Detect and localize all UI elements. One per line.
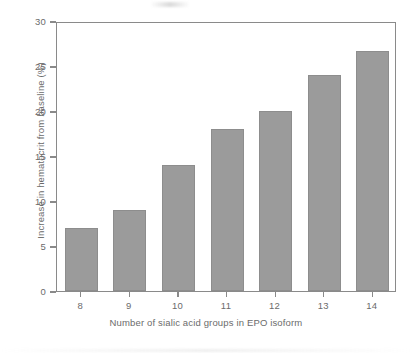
bar [211,129,244,291]
x-axis-tick [323,292,324,297]
x-axis-tick [372,292,373,297]
bar [162,165,195,291]
scan-artifact-bottom [0,349,412,352]
x-axis-tick-label: 10 [157,300,197,311]
bar [259,111,292,291]
x-axis-tick [80,292,81,297]
x-axis-tick [226,292,227,297]
x-axis-tick [275,292,276,297]
y-axis-tick-label: 0 [6,287,46,297]
bar-chart-figure: 051015202530 891011121314 Number of sial… [0,0,412,353]
x-axis-tick [129,292,130,297]
plot-area [56,22,396,292]
x-axis-title: Number of sialic acid groups in EPO isof… [0,317,412,328]
bar [356,51,389,291]
x-axis-tick [177,292,178,297]
y-axis-tick-label: 30 [6,17,46,27]
scan-artifact-top [150,2,190,7]
x-axis-tick-label: 14 [352,300,392,311]
bar [113,210,146,291]
bar [65,228,98,291]
x-axis-tick-label: 9 [109,300,149,311]
x-axis-tick-label: 8 [60,300,100,311]
bars-layer [57,23,395,291]
x-axis-tick-label: 13 [303,300,343,311]
bar [308,75,341,291]
x-axis-tick-label: 12 [255,300,295,311]
y-axis-title: Increase in hematocrit from baseline (%) [35,31,46,271]
x-axis-tick-label: 11 [206,300,246,311]
